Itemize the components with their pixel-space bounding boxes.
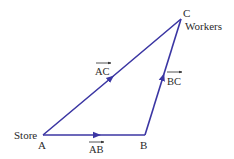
point-b-label: B — [140, 139, 147, 151]
point-a-name: Store — [14, 129, 37, 141]
vector-ac-label: AC — [95, 66, 110, 77]
point-c-label: C — [183, 7, 190, 19]
vector-bc-label: BC — [167, 76, 181, 87]
vector-ab-label: AB — [89, 144, 104, 155]
vector-triangle-diagram: Store A B C Workers AC BC AB — [0, 0, 234, 159]
vector-ac-line — [43, 19, 181, 135]
point-c-name: Workers — [185, 20, 222, 32]
triangle-edges — [43, 19, 181, 135]
vector-ac-label-group: AC — [95, 63, 111, 77]
vector-bc-label-group: BC — [167, 72, 182, 87]
point-a-label: A — [38, 139, 46, 151]
vector-ab-label-group: AB — [89, 142, 104, 155]
